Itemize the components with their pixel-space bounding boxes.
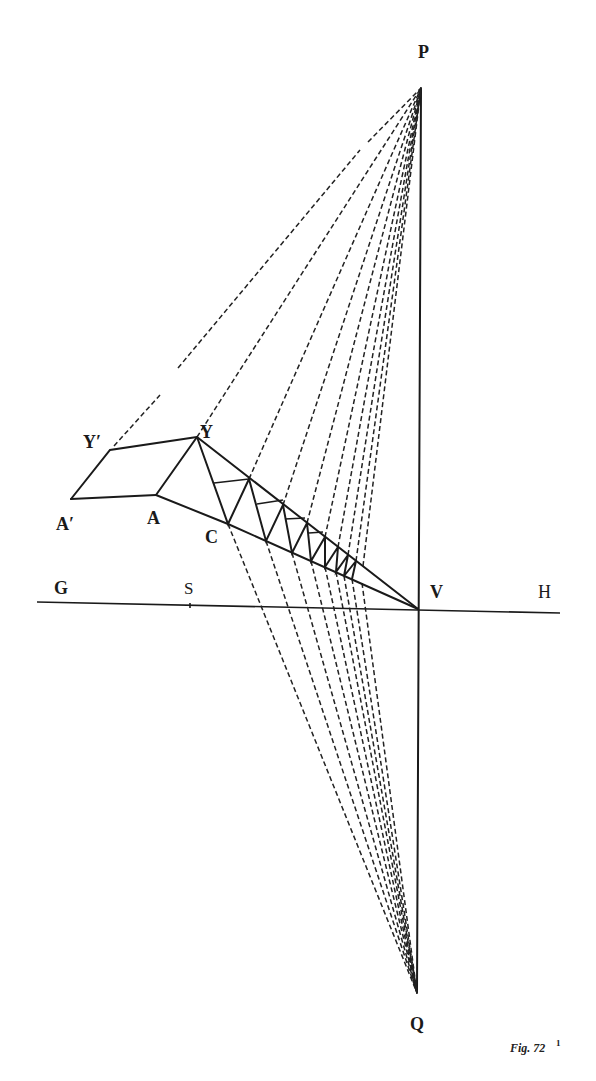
- label-Y: Y: [200, 422, 213, 442]
- zigzag: [197, 437, 356, 579]
- label-G: G: [54, 578, 68, 598]
- rays-to-Q: [228, 524, 417, 993]
- perspective-diagram: P Q V H G S Y Y′ A A′ C Fig. 72 1: [0, 0, 596, 1081]
- line-A-C-V: [156, 495, 418, 609]
- label-Q: Q: [410, 1014, 424, 1034]
- label-H: H: [538, 582, 551, 602]
- edge-A-Y: [156, 437, 197, 495]
- label-P: P: [418, 42, 429, 62]
- label-A-prime: A′: [56, 514, 74, 534]
- edge-Aprime-A: [71, 495, 156, 499]
- label-S: S: [184, 579, 193, 598]
- line-PQ: [417, 88, 421, 993]
- label-V: V: [430, 582, 443, 602]
- label-Y-prime: Y′: [83, 432, 101, 452]
- figure-caption: Fig. 72: [509, 1041, 545, 1055]
- caption-superscript: 1: [556, 1038, 561, 1048]
- line-GH: [37, 602, 560, 613]
- rays-to-P: [114, 88, 421, 566]
- label-A: A: [147, 508, 160, 528]
- label-C: C: [205, 527, 218, 547]
